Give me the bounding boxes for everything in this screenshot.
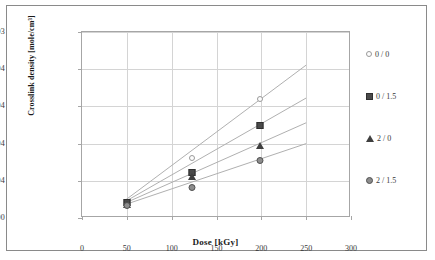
legend-item-label: 0 / 1.5 xyxy=(376,92,396,101)
data-point xyxy=(257,88,263,106)
circle-ring-marker-icon xyxy=(123,202,130,209)
chart-legend: 0 / 00 / 1.52 / 02 / 1.5 xyxy=(366,39,426,209)
legend-item[interactable]: 0 / 1.5 xyxy=(366,89,426,103)
data-point xyxy=(256,150,263,168)
triangle-filled-marker-icon xyxy=(366,135,374,142)
y-axis-title: Crosslink density [mole/cm³] xyxy=(27,0,36,159)
x-axis-tick-mark xyxy=(351,216,352,220)
y-axis-tick-label: 2.E-04 xyxy=(0,176,5,185)
circle-ring-marker-icon xyxy=(256,157,263,164)
y-axis-tick-label: 6.E-04 xyxy=(0,101,5,110)
triangle-filled-marker-icon xyxy=(256,142,264,149)
trendline xyxy=(125,144,306,205)
trendline-group xyxy=(82,32,351,218)
legend-item[interactable]: 0 / 0 xyxy=(366,47,426,61)
square-filled-marker-icon xyxy=(366,93,373,100)
circle-ring-marker-icon xyxy=(189,184,196,191)
x-axis-title: Dose [kGy] xyxy=(81,237,350,247)
y-axis-tick-label: 8.E-04 xyxy=(0,64,5,73)
y-axis-tick-label: 0.E+00 xyxy=(0,213,5,222)
legend-item[interactable]: 2 / 1.5 xyxy=(366,173,426,187)
chart-area: Crosslink density [mole/cm³] 0.E+002.E-0… xyxy=(10,9,423,247)
data-point xyxy=(123,195,130,213)
y-axis-tick-label: 1.E-03 xyxy=(0,27,5,36)
legend-item[interactable]: 2 / 0 xyxy=(366,131,426,145)
y-axis-tick-label: 4.E-04 xyxy=(0,139,5,148)
trendline xyxy=(125,65,306,200)
data-point xyxy=(189,177,196,195)
trendline xyxy=(125,123,306,203)
legend-item-label: 2 / 1.5 xyxy=(376,176,396,185)
trendline xyxy=(125,98,306,202)
data-point xyxy=(256,115,263,133)
plot-inner: 0.E+002.E-044.E-046.E-048.E-041.E-030501… xyxy=(82,32,349,216)
legend-item-label: 2 / 0 xyxy=(377,134,391,143)
circle-open-marker-icon xyxy=(366,51,372,57)
square-filled-marker-icon xyxy=(256,122,263,129)
circle-open-marker-icon xyxy=(189,155,195,161)
chart-figure: Crosslink density [mole/cm³] 0.E+002.E-0… xyxy=(0,0,435,260)
plot-area: 0.E+002.E-044.E-046.E-048.E-041.E-030501… xyxy=(81,31,350,217)
circle-open-marker-icon xyxy=(257,96,263,102)
circle-ring-marker-icon xyxy=(366,177,373,184)
legend-item-label: 0 / 0 xyxy=(375,50,389,59)
